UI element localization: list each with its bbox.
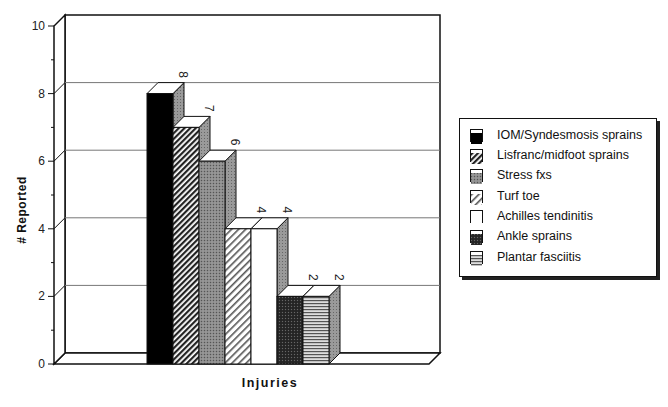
svg-text:0: 0 bbox=[38, 357, 45, 371]
svg-text:8: 8 bbox=[38, 87, 45, 101]
svg-text:7: 7 bbox=[202, 105, 216, 112]
legend-item: IOM/Syndesmosis sprains bbox=[470, 126, 642, 144]
svg-text:6: 6 bbox=[228, 139, 242, 146]
y-axis-title: # Reported bbox=[12, 200, 32, 220]
svg-text:4: 4 bbox=[254, 206, 268, 213]
legend-swatch-icon bbox=[470, 169, 483, 182]
bar bbox=[277, 296, 303, 364]
svg-text:4: 4 bbox=[38, 222, 45, 236]
legend-item: Achilles tendinitis bbox=[470, 207, 593, 225]
bar bbox=[225, 229, 251, 364]
svg-text:8: 8 bbox=[176, 71, 190, 78]
legend-item: Lisfranc/midfoot sprains bbox=[470, 146, 629, 164]
bar bbox=[251, 229, 277, 364]
legend-swatch-icon bbox=[470, 210, 483, 223]
legend-swatch-icon bbox=[470, 230, 483, 243]
legend-item: Turf toe bbox=[470, 187, 540, 205]
legend-item: Ankle sprains bbox=[470, 227, 572, 245]
legend-swatch-icon bbox=[470, 190, 483, 203]
x-axis-title: Injuries bbox=[200, 376, 340, 390]
legend-item: Plantar fasciitis bbox=[470, 248, 581, 266]
svg-text:10: 10 bbox=[32, 19, 46, 33]
svg-text:2: 2 bbox=[306, 274, 320, 281]
legend-swatch-icon bbox=[470, 149, 483, 162]
bar bbox=[173, 127, 199, 364]
svg-text:2: 2 bbox=[38, 289, 45, 303]
svg-text:6: 6 bbox=[38, 154, 45, 168]
bar bbox=[199, 161, 225, 364]
svg-text:2: 2 bbox=[332, 274, 346, 281]
legend: IOM/Syndesmosis sprains Lisfranc/midfoot… bbox=[459, 118, 657, 277]
legend-swatch-icon bbox=[470, 251, 483, 264]
bar bbox=[303, 296, 329, 364]
legend-item: Stress fxs bbox=[470, 166, 552, 184]
legend-swatch-icon bbox=[470, 129, 483, 142]
svg-text:4: 4 bbox=[280, 206, 294, 213]
bar bbox=[147, 94, 173, 364]
